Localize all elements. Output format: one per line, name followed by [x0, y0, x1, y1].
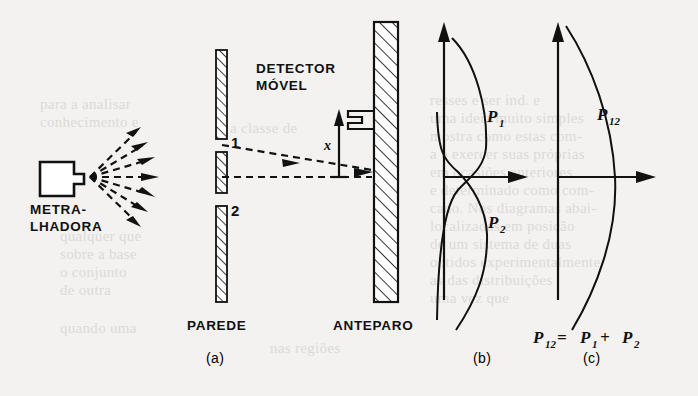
curve-p12-label: P 12 [596, 105, 621, 127]
figure-page: resses e ser ind. euma ideia muito simpl… [0, 0, 698, 396]
wall-segment-top [216, 50, 227, 139]
svg-text:P: P [486, 107, 498, 126]
svg-text:P: P [579, 328, 591, 347]
svg-text:+: + [600, 328, 610, 347]
wall-segment-middle [216, 152, 227, 193]
svg-text:2: 2 [499, 223, 506, 235]
panel-b: P 1 P 2 (b) [437, 22, 528, 366]
svg-text:=: = [557, 328, 567, 347]
svg-text:P: P [532, 328, 544, 347]
panel-c: P 12 P 12 = P 1 + P 2 (c) [532, 22, 656, 366]
svg-text:P: P [596, 105, 608, 124]
panel-b-horizontal-axis [444, 171, 528, 183]
slit-2-label: 2 [231, 202, 239, 219]
screen-label: ANTEPARO [333, 318, 413, 333]
screen-anteparo [374, 22, 398, 302]
svg-text:12: 12 [609, 115, 621, 127]
wall-label: PAREDE [187, 318, 246, 333]
physics-double-slit-figure: METRA- LHADORA 1 2 [0, 0, 698, 396]
curve-p1-label: P 1 [486, 107, 505, 129]
panel-c-equation: P 12 = P 1 + P 2 [532, 328, 640, 350]
panel-c-vertical-axis [552, 22, 564, 300]
transmitted-ray-arrowheads [282, 159, 373, 177]
svg-text:2: 2 [633, 338, 640, 350]
detector-label-line2: MÓVEL [256, 78, 308, 93]
panel-c-horizontal-axis [558, 171, 656, 183]
svg-text:P: P [621, 328, 633, 347]
source-label-line1: METRA- [30, 202, 87, 217]
panel-a-label: (a) [206, 350, 224, 366]
panel-c-label: (c) [583, 350, 601, 366]
machine-gun-icon [40, 162, 84, 196]
svg-text:1: 1 [499, 117, 505, 129]
svg-text:12: 12 [545, 338, 557, 350]
detector-label-line1: DETECTOR [256, 61, 336, 76]
panel-b-label: (b) [473, 350, 491, 366]
source-label-line2: LHADORA [30, 219, 102, 234]
x-axis-label: x [323, 138, 331, 153]
panel-a: METRA- LHADORA 1 2 [30, 22, 413, 366]
svg-text:1: 1 [592, 338, 598, 350]
wall-segment-bottom [216, 206, 227, 302]
curve-p2-label: P 2 [487, 213, 506, 235]
detector-icon [348, 111, 374, 129]
svg-text:P: P [487, 213, 499, 232]
x-axis-arrow [331, 109, 347, 177]
transmitted-rays [222, 145, 372, 177]
